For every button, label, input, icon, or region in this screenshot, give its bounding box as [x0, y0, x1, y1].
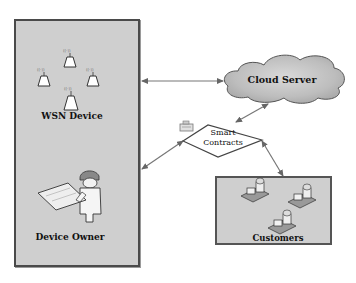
edge-contracts-cloud — [236, 104, 268, 122]
edge-contracts-customers — [262, 141, 283, 176]
svg-text:((·)): ((·)) — [64, 86, 72, 91]
wsn-device-label: WSN Device — [32, 111, 112, 121]
wireless-sensor-icon: ((·)) — [64, 86, 78, 110]
diagram-canvas: ((·)) ((·)) ((·)) ((·)) — [0, 0, 356, 283]
svg-text:((·)): ((·)) — [37, 67, 45, 72]
device-owner-label: Device Owner — [30, 232, 110, 242]
engineer-with-blueprint-icon — [38, 171, 101, 222]
wireless-sensor-icon: ((·)) — [63, 48, 76, 67]
svg-text:((·)): ((·)) — [63, 48, 71, 53]
customers-label: Customers — [248, 233, 308, 243]
smart-contracts-label-line1: Smart — [200, 128, 246, 137]
wireless-sensor-icon: ((·)) — [86, 67, 99, 86]
cloud-server-label: Cloud Server — [242, 74, 322, 85]
wireless-sensor-icon: ((·)) — [37, 67, 50, 86]
svg-text:((·)): ((·)) — [86, 67, 94, 72]
house-icon — [241, 178, 269, 202]
edge-owner-contracts — [142, 141, 183, 169]
contract-icon — [180, 121, 193, 131]
house-icon — [268, 210, 296, 234]
house-icon — [288, 184, 316, 208]
smart-contracts-label-line2: Contracts — [200, 138, 246, 147]
